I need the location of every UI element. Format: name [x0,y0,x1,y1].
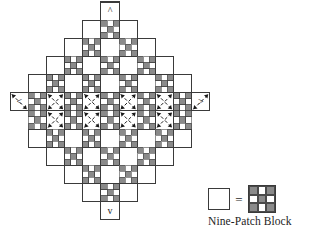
nine-patch-block [137,111,155,129]
patch-cell [143,147,149,153]
patch-cell [107,159,113,165]
patch-cell [131,38,137,44]
patch-cell [71,56,77,62]
patch-cell [59,135,65,141]
patch-cell [174,93,180,99]
nine-patch-block [137,147,155,165]
nine-patch-block [47,75,65,93]
patch-cell [113,69,119,75]
patch-cell [119,81,125,87]
patch-cell [65,153,71,159]
patch-cell [186,99,192,105]
patch-cell [89,129,95,135]
plain-setting-block [119,56,137,74]
patch-cell [137,117,143,123]
patch-cell [95,171,101,177]
patch-cell [131,165,137,171]
patch-cell [40,105,46,111]
patch-cell [65,111,71,117]
legend-patch-cell [266,203,275,212]
patch-cell [71,117,77,123]
patch-cell [89,50,95,56]
patch-cell [107,147,113,153]
plain-setting-block [101,129,119,147]
patch-cell [155,87,161,93]
patch-cell [131,75,137,81]
patch-cell [155,129,161,135]
patch-cell [149,123,155,129]
patch-cell [59,81,65,87]
patch-cell [143,105,149,111]
patch-cell [125,87,131,93]
nine-patch-block [155,75,173,93]
patch-cell [77,111,83,117]
patch-cell [119,44,125,50]
plain-setting-block [83,184,101,202]
patch-cell [65,69,71,75]
patch-cell [186,111,192,117]
legend-caption: Nine-Patch Block [208,215,300,227]
patch-cell [119,171,125,177]
patch-cell [168,135,174,141]
patch-cell [125,44,131,50]
plain-setting-block [101,165,119,183]
patch-cell [71,153,77,159]
plain-setting-block [47,147,65,165]
plain-setting-block [174,129,192,147]
patch-cell [125,81,131,87]
legend-patch-cell [258,195,267,204]
patch-cell [174,123,180,129]
patch-cell [119,135,125,141]
patch-cell [89,141,95,147]
plain-setting-block [47,56,65,74]
nine-patch-block [101,111,119,129]
patch-cell [77,93,83,99]
patch-cell [174,105,180,111]
patch-cell [186,93,192,99]
nine-patch-block [101,56,119,74]
patch-cell [71,123,77,129]
patch-cell [161,87,167,93]
patch-cell [143,93,149,99]
patch-cell [119,87,125,93]
patch-cell [101,20,107,26]
patch-cell [101,153,107,159]
patch-cell [95,87,101,93]
patch-cell [89,171,95,177]
patch-cell [95,141,101,147]
legend-equals-sign: = [230,193,248,206]
legend-patch-cell [258,186,267,195]
nine-patch-block [119,129,137,147]
nine-patch-block [83,129,101,147]
nine-patch-block [65,147,83,165]
patch-cell [83,177,89,183]
patch-cell [53,135,59,141]
patch-cell [95,44,101,50]
patch-cell [143,63,149,69]
patch-cell [101,99,107,105]
patch-cell [143,123,149,129]
patch-cell [89,87,95,93]
plain-setting-block [119,184,137,202]
patch-cell [113,159,119,165]
patch-cell [83,171,89,177]
patch-cell [89,44,95,50]
patch-cell [65,99,71,105]
patch-cell [137,153,143,159]
patch-cell [113,32,119,38]
patch-cell [107,184,113,190]
nine-patch-block [174,111,192,129]
patch-cell [113,56,119,62]
patch-cell [155,75,161,81]
patch-cell [101,105,107,111]
patch-cell [107,20,113,26]
plain-setting-block [137,165,155,183]
patch-cell [77,159,83,165]
patch-cell [180,99,186,105]
legend: = Nine-Patch Block [208,184,300,227]
patch-cell [125,141,131,147]
patch-cell [180,111,186,117]
legend-patch-cell [249,203,258,212]
nine-patch-block [119,165,137,183]
nine-patch-block [101,20,119,38]
